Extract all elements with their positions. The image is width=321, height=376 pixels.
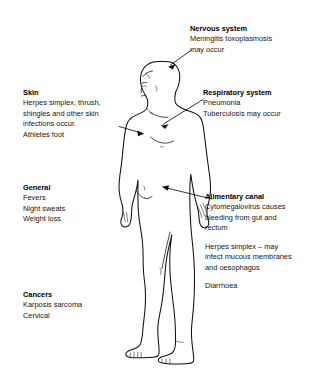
general-line-2: Night sweats bbox=[23, 204, 65, 214]
label-skin: Skin Herpes simplex, thrush, shingles an… bbox=[23, 88, 101, 140]
nervous-pointer bbox=[168, 50, 192, 70]
diagram-canvas: Nervous system Meningitis toxoplasmosis … bbox=[0, 0, 321, 376]
skin-line-1: Herpes simplex, thrush, bbox=[23, 98, 101, 108]
label-cancers: Cancers Karposis sarcoma Cervical bbox=[23, 290, 82, 321]
label-alimentary-canal: Alimentary canal Cytomegalovirus causes … bbox=[205, 192, 292, 292]
cancers-line-1: Karposis sarcoma bbox=[23, 300, 82, 310]
alimentary-p1-line-2: bleeding from gut and bbox=[205, 213, 292, 223]
skin-line-2: shingles and other skin bbox=[23, 109, 101, 119]
general-line-3: Weight loss bbox=[23, 214, 65, 224]
nervous-line-2: may occur bbox=[190, 45, 272, 55]
alimentary-p2-line-3: and oesophagus bbox=[205, 263, 292, 273]
label-respiratory-system: Respiratory system Pneumonia Tuberculosi… bbox=[203, 88, 281, 119]
alimentary-p1-line-1: Cytomegalovirus causes bbox=[205, 202, 292, 212]
respiratory-line-1: Pneumonia bbox=[203, 98, 281, 108]
skin-line-4: Athletes foot bbox=[23, 130, 101, 140]
alimentary-p3-line-1: Diarrhoea bbox=[205, 281, 292, 291]
alimentary-p1-line-3: rectum bbox=[205, 223, 292, 233]
cancers-line-2: Cervical bbox=[23, 311, 82, 321]
respiratory-line-2: Tuberculosis may occur bbox=[203, 109, 281, 119]
nervous-heading: Nervous system bbox=[190, 24, 272, 34]
alimentary-p2-line-2: infect mucous membranes bbox=[205, 252, 292, 262]
general-heading: General bbox=[23, 183, 65, 193]
nervous-line-1: Meningitis toxoplasmosis bbox=[190, 34, 272, 44]
general-line-1: Fevers bbox=[23, 193, 65, 203]
skin-heading: Skin bbox=[23, 88, 101, 98]
skin-pointer bbox=[119, 127, 144, 137]
label-general: General Fevers Night sweats Weight loss bbox=[23, 183, 65, 225]
skin-line-3: infections occur. bbox=[23, 119, 101, 129]
respiratory-pointer bbox=[161, 100, 203, 130]
alimentary-heading: Alimentary canal bbox=[205, 192, 292, 202]
respiratory-heading: Respiratory system bbox=[203, 88, 281, 98]
alimentary-p2-line-1: Herpes simplex – may bbox=[205, 242, 292, 252]
label-nervous-system: Nervous system Meningitis toxoplasmosis … bbox=[190, 24, 272, 55]
cancers-heading: Cancers bbox=[23, 290, 82, 300]
